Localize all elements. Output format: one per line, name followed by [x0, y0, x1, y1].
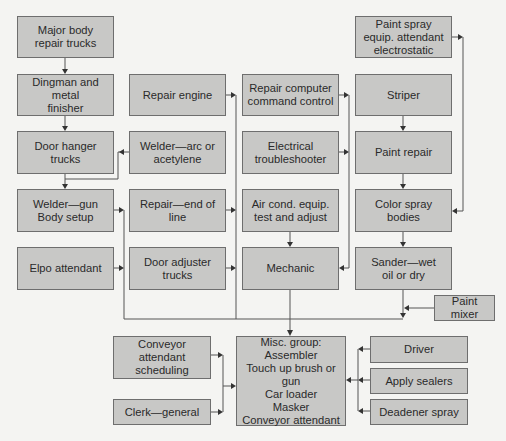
node-repair-end-of-line: Repair—end of line — [129, 189, 226, 232]
node-dingman-metal-finisher: Dingman and metal finisher — [17, 74, 114, 116]
node-repair-computer-command-control: Repair computer command control — [242, 74, 339, 116]
node-major-body-repair-trucks: Major body repair trucks — [17, 16, 114, 58]
node-mechanic: Mechanic — [242, 247, 339, 290]
node-striper: Striper — [355, 74, 452, 116]
node-welder-gun-body-setup: Welder—gun Body setup — [17, 189, 114, 232]
node-air-cond-test-adjust: Air cond. equip. test and adjust — [242, 189, 339, 232]
node-door-adjuster-trucks: Door adjuster trucks — [129, 247, 226, 290]
node-driver: Driver — [370, 336, 468, 363]
node-paint-repair: Paint repair — [355, 131, 452, 174]
node-door-hanger-trucks: Door hanger trucks — [17, 131, 114, 174]
node-deadener-spray: Deadener spray — [370, 399, 468, 425]
node-paint-spray-equip-attendant: Paint spray equip. attendant electrostat… — [355, 16, 452, 58]
node-welder-arc-acetylene: Welder—arc or acetylene — [129, 131, 226, 174]
node-sander-wet-oil-dry: Sander—wet oil or dry — [355, 247, 452, 290]
node-misc-group: Misc. group: Assembler Touch up brush or… — [236, 336, 346, 426]
node-conveyor-attendant-scheduling: Conveyor attendant scheduling — [113, 336, 211, 379]
node-electrical-troubleshooter: Electrical troubleshooter — [242, 131, 339, 174]
node-color-spray-bodies: Color spray bodies — [355, 189, 452, 232]
node-repair-engine: Repair engine — [129, 74, 226, 116]
workflow-diagram: Major body repair trucks Dingman and met… — [0, 0, 506, 441]
node-paint-mixer: Paint mixer — [434, 295, 495, 321]
node-clerk-general: Clerk—general — [113, 399, 211, 425]
node-apply-sealers: Apply sealers — [370, 368, 468, 394]
node-elpo-attendant: Elpo attendant — [17, 247, 114, 290]
